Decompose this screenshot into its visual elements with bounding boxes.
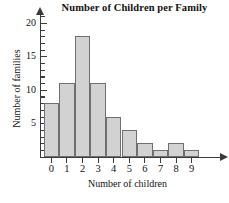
x-axis-tick-label: 1 — [59, 163, 75, 174]
y-axis-tick-label: 20 — [14, 17, 36, 28]
y-axis-tick-label: 10 — [14, 84, 36, 95]
y-axis-major-tick — [40, 56, 47, 57]
x-axis-tick-label: 8 — [168, 163, 184, 174]
plot-area: 5101520 0123456789 — [0, 0, 229, 203]
y-axis-minor-tick — [40, 83, 45, 84]
x-axis-tick-label: 6 — [137, 163, 153, 174]
x-axis-tick-label: 7 — [153, 163, 169, 174]
histogram-bar — [153, 150, 169, 157]
x-axis-tick-label: 3 — [90, 163, 106, 174]
y-axis-minor-tick — [40, 30, 45, 31]
histogram-bar — [137, 143, 153, 156]
y-axis-major-tick — [40, 90, 47, 91]
x-axis-tick — [160, 158, 161, 163]
histogram-bar — [44, 103, 60, 156]
x-axis-tick — [144, 158, 145, 163]
x-axis-tick — [129, 158, 130, 163]
x-axis-tick-label: 4 — [106, 163, 122, 174]
y-axis-minor-tick — [40, 63, 45, 64]
histogram-bar — [122, 130, 138, 157]
x-axis-tick — [113, 158, 114, 163]
x-axis-tick-label: 9 — [184, 163, 200, 174]
histogram-bar — [75, 36, 91, 156]
histogram-bar — [184, 150, 200, 157]
x-axis-tick — [51, 158, 52, 163]
y-axis-arrow-icon — [36, 7, 44, 15]
y-axis-minor-tick — [40, 70, 45, 71]
y-axis-major-tick — [40, 23, 47, 24]
x-axis-tick — [176, 158, 177, 163]
x-axis-tick-label: 0 — [43, 163, 59, 174]
x-axis-tick-label: 2 — [75, 163, 91, 174]
y-axis-tick-label: 15 — [14, 50, 36, 61]
y-axis-minor-tick — [40, 43, 45, 44]
x-axis-arrow-icon — [220, 153, 228, 161]
x-axis-tick — [82, 158, 83, 163]
x-axis-tick — [98, 158, 99, 163]
histogram-bar — [90, 83, 106, 156]
x-axis-tick — [66, 158, 67, 163]
y-axis-tick-label: 5 — [14, 117, 36, 128]
histogram-bar — [59, 83, 75, 156]
y-axis-minor-tick — [40, 76, 45, 77]
y-axis-minor-tick — [40, 50, 45, 51]
x-axis-tick — [191, 158, 192, 163]
x-axis-tick-label: 5 — [121, 163, 137, 174]
y-axis-minor-tick — [40, 96, 45, 97]
chart-figure: Number of Children per Family Number of … — [0, 0, 229, 203]
y-axis-minor-tick — [40, 36, 45, 37]
histogram-bar — [106, 117, 122, 157]
y-axis-minor-tick — [40, 16, 45, 17]
histogram-bar — [168, 143, 184, 156]
